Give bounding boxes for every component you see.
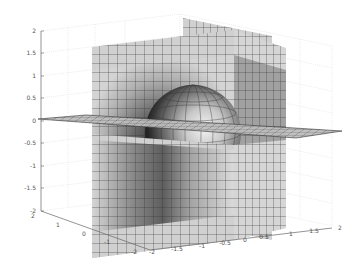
slice-plot-3d: 21.510.50-0.5-1-1.5-2 210-1-2 -2-1.5-1-0… — [0, 0, 362, 268]
x-tick-label: 0.5 — [259, 233, 269, 240]
y-tick-label: 2 — [31, 212, 35, 219]
x-tick-label: -0.5 — [219, 239, 231, 246]
x-tick-label: 1 — [289, 230, 293, 237]
y-tick-label: 0 — [82, 230, 86, 237]
y-tick-label: 1 — [56, 221, 60, 228]
z-tick-label: -1.5 — [24, 184, 36, 191]
z-tick-label: -0.5 — [24, 139, 36, 146]
y-tick-label: -2 — [131, 248, 137, 255]
x-tick-label: 0 — [243, 236, 247, 243]
z-tick-label: 1.5 — [26, 49, 36, 56]
x-tick-label: -2 — [149, 248, 155, 255]
z-tick-label: 2 — [32, 27, 36, 34]
x-tick-label: -1 — [199, 242, 205, 249]
y-tick-label: -1 — [104, 238, 110, 245]
x-tick-label: 1.5 — [309, 227, 319, 234]
z-tick-label: 1 — [32, 72, 36, 79]
x-tick-label: -1.5 — [171, 245, 183, 252]
x-tick-label: 2 — [338, 224, 342, 231]
z-tick-label: 0 — [32, 117, 36, 124]
z-tick-label: 0.5 — [26, 94, 36, 101]
z-tick-label: -1 — [30, 162, 36, 169]
